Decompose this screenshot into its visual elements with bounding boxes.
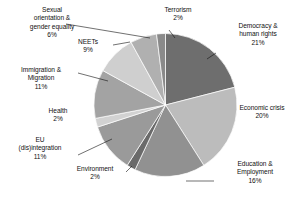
label-sexual-orientation: Sexual orientation & gender equality 6% — [0, 6, 104, 40]
label-eu-pct: 11% — [1, 153, 79, 161]
label-eu-line2: (dis)integration — [19, 144, 62, 151]
label-health-line1: Health — [49, 107, 68, 114]
label-education-line2: Employment — [237, 168, 273, 175]
leader-line-eu — [78, 139, 112, 155]
label-immigration-migration: Immigration & Migration 11% — [2, 66, 80, 91]
label-health: Health 2% — [32, 107, 84, 124]
label-education-employment: Education & Employment 16% — [216, 160, 294, 185]
pie-slices-group — [94, 33, 237, 176]
pie-chart: Sexual orientation & gender equality 6% … — [0, 0, 299, 202]
label-neets: NEETs 9% — [62, 38, 114, 55]
label-terrorism-pct: 2% — [148, 14, 208, 22]
label-democracy-line2: human rights — [239, 30, 277, 37]
label-terrorism: Terrorism 2% — [148, 6, 208, 23]
label-economic-line1: Economic crisis — [239, 104, 284, 111]
label-neets-pct: 9% — [62, 46, 114, 54]
label-health-pct: 2% — [32, 115, 84, 123]
label-environment-line1: Environment — [77, 165, 113, 172]
label-sexual-line1: Sexual — [42, 6, 62, 13]
label-immigration-pct: 11% — [2, 83, 80, 91]
label-economic-pct: 20% — [227, 112, 297, 120]
label-immigration-line2: Migration — [28, 74, 55, 81]
label-immigration-line1: Immigration & — [21, 66, 61, 73]
label-eu-line1: EU — [35, 136, 44, 143]
label-democracy-pct: 21% — [219, 39, 297, 47]
label-eu-disintegration: EU (dis)integration 11% — [1, 136, 79, 161]
label-economic-crisis: Economic crisis 20% — [227, 104, 297, 121]
label-sexual-line3: gender equality — [30, 23, 74, 30]
label-democracy-line1: Democracy & — [238, 22, 277, 29]
label-environment: Environment 2% — [62, 165, 128, 182]
label-environment-pct: 2% — [62, 173, 128, 181]
label-neets-line1: NEETs — [78, 38, 98, 45]
label-terrorism-line1: Terrorism — [164, 6, 191, 13]
label-democracy-human-rights: Democracy & human rights 21% — [219, 22, 297, 47]
label-education-pct: 16% — [216, 177, 294, 185]
label-sexual-line2: orientation & — [34, 14, 70, 21]
label-education-line1: Education & — [237, 160, 272, 167]
